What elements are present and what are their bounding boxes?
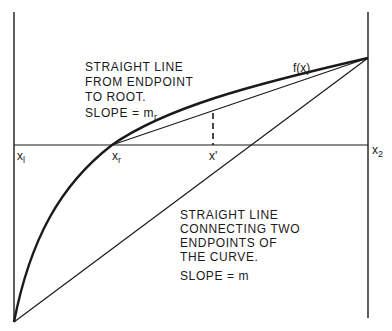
label-x1: xl [17, 149, 25, 165]
label-xr: xr [112, 149, 121, 165]
curve-label-fx: f(x) [293, 61, 310, 75]
lower-line-2: CONNECTING TWO [180, 222, 300, 236]
label-xprime: x' [209, 149, 217, 163]
upper-line-3: TO ROOT. [85, 90, 146, 104]
upper-line-2: FROM ENDPOINT [85, 75, 194, 89]
lower-annotation: STRAIGHT LINE CONNECTING TWO ENDPOINTS O… [180, 208, 300, 283]
lower-line-3: ENDPOINTS OF [180, 236, 277, 250]
lower-line-1: STRAIGHT LINE [180, 208, 278, 222]
upper-line-1: STRAIGHT LINE [85, 60, 183, 74]
lower-line-4: THE CURVE. [180, 250, 258, 264]
lower-slope-label: SLOPE = m [180, 269, 249, 283]
label-x2: x2 [372, 143, 383, 159]
diagram-canvas: STRAIGHT LINE FROM ENDPOINT TO ROOT. SLO… [0, 0, 392, 331]
upper-slope-label: SLOPE = mr [85, 106, 158, 122]
